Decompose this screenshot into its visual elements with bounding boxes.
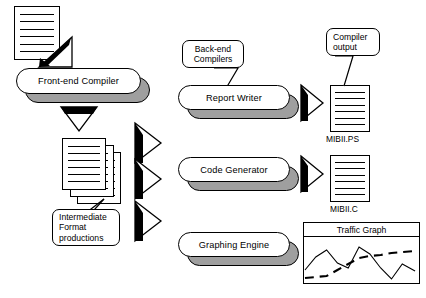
traffic-graph-window[interactable]: Traffic Graph bbox=[303, 222, 420, 284]
output-caption-mibii-c: MIBII.C bbox=[330, 204, 358, 214]
arrow-right-graphing-engine-icon bbox=[134, 200, 162, 242]
callout-back-end-compilers: Back-end Compilers bbox=[182, 40, 244, 68]
arrow-right-mibii-c-icon bbox=[300, 155, 324, 193]
traffic-graph-plot bbox=[304, 237, 419, 283]
node-label: Graphing Engine bbox=[199, 240, 269, 250]
node-face: Front-end Compiler bbox=[16, 68, 141, 94]
node-label: Front-end Compiler bbox=[38, 76, 119, 86]
diagram-canvas: Front-end Compiler Intermediate Format p… bbox=[0, 0, 426, 298]
traffic-graph-dashed-trace bbox=[305, 251, 415, 278]
callout-intermediate-format: Intermediate Format productions bbox=[52, 209, 120, 246]
node-front-end-compiler[interactable]: Front-end Compiler bbox=[16, 68, 141, 94]
traffic-graph-title: Traffic Graph bbox=[304, 223, 419, 237]
arrow-down-icon bbox=[60, 106, 98, 132]
arrow-right-code-generator-icon bbox=[134, 158, 162, 200]
node-label: Report Writer bbox=[206, 93, 262, 103]
arrow-right-mibii-ps-icon bbox=[300, 84, 324, 122]
callout-leader-compiler-output-icon bbox=[334, 55, 358, 87]
traffic-graph-solid-trace bbox=[305, 247, 415, 279]
callout-line: output bbox=[333, 42, 373, 52]
arrow-down-left-icon bbox=[38, 36, 74, 68]
callout-line: Back-end bbox=[189, 44, 237, 54]
node-face: Code Generator bbox=[178, 157, 290, 182]
callout-line: productions bbox=[59, 233, 113, 243]
output-document-mibii-ps bbox=[330, 85, 370, 132]
callout-compiler-output: Compiler output bbox=[326, 28, 380, 56]
node-label: Code Generator bbox=[200, 165, 267, 175]
callout-line: Format bbox=[59, 222, 113, 232]
node-code-generator[interactable]: Code Generator bbox=[178, 157, 290, 182]
callout-line: Intermediate bbox=[59, 212, 113, 222]
callout-line: Compilers bbox=[189, 54, 237, 64]
output-document-mibii-c bbox=[330, 155, 370, 202]
node-face: Graphing Engine bbox=[178, 232, 290, 257]
callout-line: Compiler bbox=[333, 32, 373, 42]
node-report-writer[interactable]: Report Writer bbox=[178, 85, 290, 110]
node-graphing-engine[interactable]: Graphing Engine bbox=[178, 232, 290, 257]
output-caption-mibii-ps: MIBII.PS bbox=[326, 134, 359, 144]
node-face: Report Writer bbox=[178, 85, 290, 110]
intermediate-document-1 bbox=[62, 138, 106, 190]
